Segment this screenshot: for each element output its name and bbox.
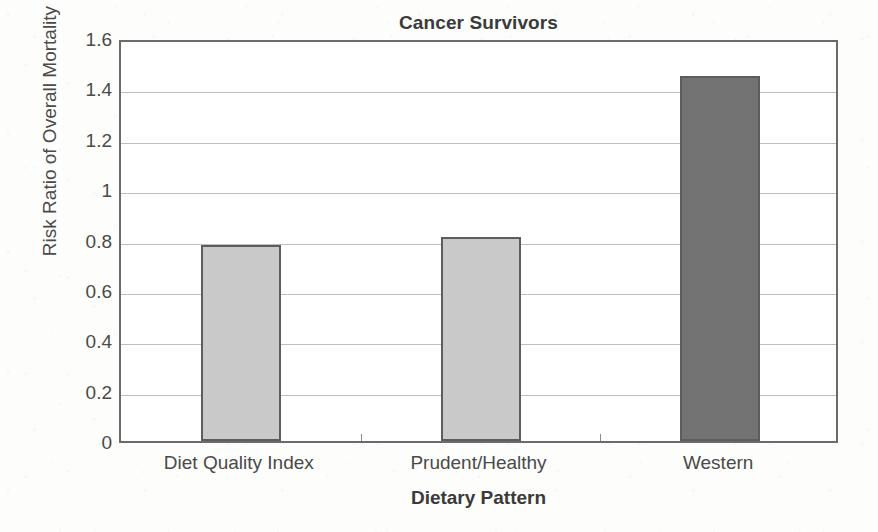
chart-figure: Cancer Survivors Risk Ratio of Overall M… (0, 0, 878, 532)
x-axis-title: Dietary Pattern (119, 487, 838, 509)
x-axis-tick-label: Prudent/Healthy (410, 452, 546, 474)
x-axis-tick-labels: Diet Quality IndexPrudent/HealthyWestern (119, 452, 838, 478)
bar-series (121, 42, 836, 441)
y-axis-tick-label: 0 (0, 432, 112, 454)
bar-diet-quality-index (201, 245, 281, 441)
y-axis-tick-label: 1.6 (0, 29, 112, 51)
chart-title: Cancer Survivors (119, 12, 838, 34)
y-axis-tick-label: 0.6 (0, 281, 112, 303)
x-axis-tick-label: Diet Quality Index (164, 452, 314, 474)
plot-area (119, 40, 838, 443)
x-axis-tick-label: Western (683, 452, 753, 474)
y-axis-tick-label: 1 (0, 180, 112, 202)
y-axis-tick-labels: 00.20.40.60.811.21.41.6 (0, 40, 112, 443)
bar-prudent-healthy (441, 237, 521, 441)
y-axis-tick-label: 0.2 (0, 382, 112, 404)
y-axis-tick-label: 0.4 (0, 331, 112, 353)
bar-western (680, 76, 760, 441)
y-axis-tick-label: 1.2 (0, 130, 112, 152)
y-axis-tick-label: 0.8 (0, 231, 112, 253)
y-axis-tick-label: 1.4 (0, 79, 112, 101)
